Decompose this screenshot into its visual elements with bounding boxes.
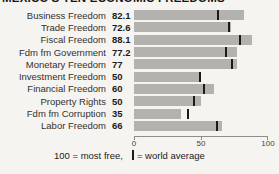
bar-fill xyxy=(134,72,201,82)
value-label: 77 xyxy=(112,59,134,70)
chart-title: MEXICO'S TEN ECONOMIC FREEDOMS xyxy=(2,0,279,4)
chart-panel: MEXICO'S TEN ECONOMIC FREEDOMS Business … xyxy=(0,0,279,174)
bar-fill xyxy=(134,96,201,106)
bar-track xyxy=(134,10,268,20)
chart-row: Property Rights 50 xyxy=(0,95,268,107)
value-label: 50 xyxy=(112,96,134,107)
category-label: Fdm fm Government xyxy=(0,47,106,58)
bar-track xyxy=(134,121,268,131)
world-average-marker xyxy=(217,10,219,20)
bar-fill xyxy=(134,35,252,45)
world-average-marker xyxy=(231,59,233,69)
bar-fill xyxy=(134,59,237,69)
bar-track xyxy=(134,47,268,57)
x-axis-labels: 0 50 100 xyxy=(134,139,268,148)
category-label: Financial Freedom xyxy=(0,83,106,94)
category-label: Fdm fm Corruption xyxy=(0,108,106,119)
category-label: Monetary Freedom xyxy=(0,59,106,70)
world-average-legend-icon xyxy=(132,150,134,160)
chart-row: Labor Freedom 66 xyxy=(0,120,268,132)
bar-track xyxy=(134,22,268,32)
bar-rows: Business Freedom 82.1 Trade Freedom 72.6… xyxy=(0,9,268,132)
chart-row: Fdm fm Corruption 35 xyxy=(0,107,268,119)
value-label: 72.6 xyxy=(112,22,134,33)
chart-row: Investment Freedom 50 xyxy=(0,70,268,82)
value-label: 35 xyxy=(112,108,134,119)
category-label: Property Rights xyxy=(0,96,106,107)
chart-title-clipped: MEXICO'S TEN ECONOMIC FREEDOMS xyxy=(2,0,279,7)
value-label: 82.1 xyxy=(112,10,134,21)
bar-track xyxy=(134,96,268,106)
bar-fill xyxy=(134,22,231,32)
chart-row: Fiscal Freedom 88.1 xyxy=(0,34,268,46)
category-label: Labor Freedom xyxy=(0,120,106,131)
bar-track xyxy=(134,72,268,82)
value-label: 88.1 xyxy=(112,34,134,45)
bar-fill xyxy=(134,121,222,131)
value-label: 66 xyxy=(112,120,134,131)
bar-track xyxy=(134,109,268,119)
x-tick-label-100: 100 xyxy=(261,139,274,148)
value-label: 50 xyxy=(112,71,134,82)
value-label: 60 xyxy=(112,83,134,94)
legend-scale-note: 100 = most free, xyxy=(54,150,123,161)
category-label: Trade Freedom xyxy=(0,22,106,33)
bar-fill xyxy=(134,109,181,119)
category-label: Investment Freedom xyxy=(0,71,106,82)
chart-row: Financial Freedom 60 xyxy=(0,83,268,95)
bar-fill xyxy=(134,10,244,20)
bar-track xyxy=(134,35,268,45)
chart-row: Monetary Freedom 77 xyxy=(0,58,268,70)
chart-row: Fdm fm Government 77.2 xyxy=(0,46,268,58)
x-tick-label-0: 0 xyxy=(132,139,136,148)
legend: 100 = most free,= world average xyxy=(54,150,205,161)
chart-row: Trade Freedom 72.6 xyxy=(0,21,268,33)
bar-track xyxy=(134,84,268,94)
category-label: Business Freedom xyxy=(0,10,106,21)
world-average-marker xyxy=(228,22,230,32)
x-tick-label-50: 50 xyxy=(197,139,206,148)
bar-track xyxy=(134,59,268,69)
world-average-marker xyxy=(225,47,227,57)
world-average-marker xyxy=(216,121,218,131)
category-label: Fiscal Freedom xyxy=(0,34,106,45)
world-average-marker xyxy=(187,109,189,119)
bar-fill xyxy=(134,47,237,57)
legend-marker-note: = world average xyxy=(137,150,205,161)
value-label: 77.2 xyxy=(112,47,134,58)
world-average-marker xyxy=(203,84,205,94)
world-average-marker xyxy=(239,35,241,45)
world-average-marker xyxy=(193,96,195,106)
world-average-marker xyxy=(199,72,201,82)
chart-row: Business Freedom 82.1 xyxy=(0,9,268,21)
